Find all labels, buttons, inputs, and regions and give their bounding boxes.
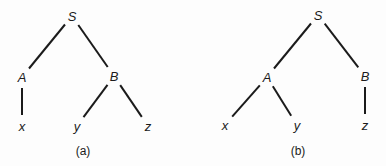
- node-label-y: y: [73, 119, 82, 134]
- tree-edge-S-A: [274, 24, 311, 69]
- node-label-B: B: [361, 69, 370, 84]
- node-label-z: z: [361, 118, 369, 133]
- node-label-S: S: [314, 8, 323, 23]
- tree-edge-A-y: [273, 86, 291, 115]
- tree-edge-A-x: [232, 85, 260, 116]
- node-label-y: y: [293, 118, 302, 133]
- tree-caption: (b): [291, 144, 306, 158]
- node-label-x: x: [18, 119, 26, 134]
- tree-edge-S-A: [29, 25, 65, 69]
- tree-a-canvas: SABxyz(a): [0, 0, 193, 166]
- node-label-B: B: [110, 69, 119, 84]
- node-label-A: A: [262, 70, 272, 85]
- tree-edge-S-B: [78, 25, 107, 67]
- tree-b-canvas: SABxyz(b): [193, 0, 386, 166]
- node-label-S: S: [68, 9, 77, 24]
- node-label-x: x: [221, 118, 229, 133]
- node-label-A: A: [17, 70, 27, 85]
- tree-caption: (a): [76, 144, 91, 158]
- tree-b: SABxyz(b): [193, 0, 386, 166]
- tree-edge-S-B: [325, 24, 359, 68]
- parse-trees-figure: SABxyz(a) SABxyz(b): [0, 0, 386, 166]
- node-label-z: z: [144, 119, 152, 134]
- tree-edge-B-y: [84, 85, 108, 117]
- tree-edge-B-z: [120, 85, 142, 117]
- tree-a: SABxyz(a): [0, 0, 193, 166]
